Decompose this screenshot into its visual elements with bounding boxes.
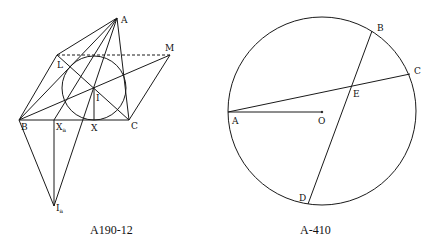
point-label-b: B [21, 122, 28, 132]
segment-ab [19, 18, 117, 120]
point-label-c: C [131, 121, 138, 131]
point-label-d: D [299, 193, 306, 203]
point-label-a: A [120, 15, 128, 25]
point-label-xa: Xa [56, 122, 66, 133]
segment-mc [129, 55, 170, 120]
point-label-e: E [353, 89, 360, 99]
figure-caption: A190-12 [90, 223, 133, 237]
point-label-m: M [165, 43, 174, 53]
segment-b-ia [19, 120, 54, 206]
point-label-c: C [414, 66, 421, 76]
segment-a-xa [54, 18, 117, 120]
point-label-b: B [377, 23, 384, 33]
figure-a-410: A O B C E D A-410 [228, 17, 421, 237]
segment-ac [117, 18, 129, 120]
geometry-figures: A L M I B Xa X C Ia A190-12 A O B C E D … [0, 0, 436, 241]
point-label-i: I [96, 93, 100, 103]
point-label-x: X [91, 123, 98, 133]
point-label-o: O [318, 116, 325, 126]
point-label-a: A [231, 116, 239, 126]
segment-lb [19, 55, 57, 120]
point-label-l: L [57, 60, 63, 70]
segment-lc [57, 55, 129, 120]
point-label-ia: Ia [56, 203, 64, 214]
center-dot [321, 111, 323, 113]
figure-caption: A-410 [300, 223, 331, 237]
figure-a190-12: A L M I B Xa X C Ia A190-12 [19, 15, 174, 237]
segment-a-ia [54, 18, 117, 206]
chord-ac [228, 74, 410, 112]
